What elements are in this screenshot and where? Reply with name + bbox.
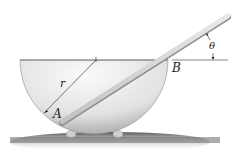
label-theta: θ xyxy=(209,41,215,51)
label-r: r xyxy=(60,78,65,89)
label-a: A xyxy=(53,108,62,120)
label-b: B xyxy=(172,62,181,74)
bowl-rod-diagram xyxy=(0,0,247,159)
floor xyxy=(10,137,220,143)
angle-arrowhead-bottom xyxy=(212,57,215,60)
